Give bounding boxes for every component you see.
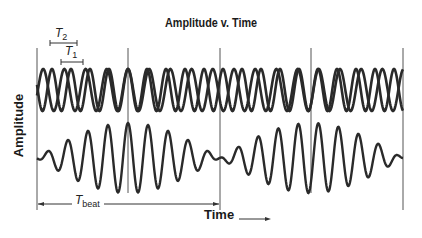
chart-title: Amplitude v. Time <box>21 16 401 30</box>
tbeat-label: Tbeat <box>74 193 101 209</box>
tbeat-arrow <box>38 202 219 206</box>
t2-label: T2 <box>55 26 67 42</box>
figure: Amplitude v. Time Amplitude Time T2 T1 T… <box>0 0 422 238</box>
y-axis-label: Amplitude <box>11 86 26 166</box>
t1-label: T1 <box>65 44 77 60</box>
x-axis-label: Time <box>204 207 234 222</box>
time-arrow <box>239 217 271 221</box>
